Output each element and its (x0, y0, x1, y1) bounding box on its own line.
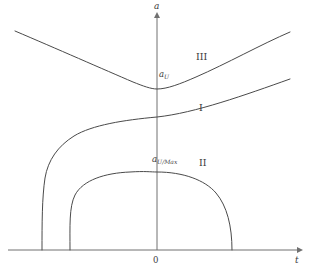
vertical-axis-arrow-icon (154, 12, 160, 18)
region-label-one: I (199, 103, 203, 113)
a-u-subscript: U (164, 73, 169, 80)
vertical-axis-label: a (154, 2, 159, 11)
region-label-two: II (199, 158, 207, 168)
annotation-a-u: aU (159, 70, 169, 79)
a-umax-sub-max: Max (164, 158, 177, 165)
annotation-a-u-max: aU/Max (152, 155, 177, 164)
origin-label: 0 (153, 256, 158, 265)
a-umax-subscript: U/Max (157, 158, 177, 165)
curve-upper-branch (15, 31, 290, 89)
diagram-svg (0, 0, 309, 279)
horizontal-axis-label: t (295, 256, 299, 265)
horizontal-axis-arrow-icon (297, 247, 303, 253)
figure-canvas: a t 0 aU aU/Max III I II (0, 0, 309, 279)
region-label-three: III (196, 52, 207, 62)
curve-inner-dome (70, 172, 232, 250)
